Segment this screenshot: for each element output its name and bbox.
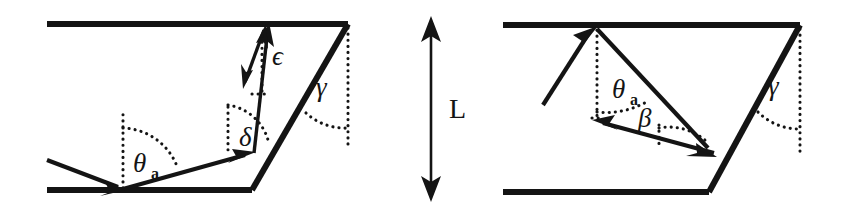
right-reflected-ray-arrowhead (592, 115, 618, 130)
left-epsilon-symbol: ϵ (272, 41, 284, 71)
left-theta-a-arc (123, 128, 178, 169)
right-slanted-wall (709, 25, 800, 192)
right-incoming-ray-arrowhead (573, 26, 598, 51)
left-delta-symbol: δ (239, 122, 252, 152)
right-gamma-arc (758, 112, 800, 129)
right-diagram: θ a β γ (503, 25, 800, 192)
left-theta-a-subscript: a (151, 165, 159, 182)
physics-diagram-svg: θ a δ ϵ γ L (0, 0, 844, 218)
right-theta-a-symbol: θ (612, 74, 625, 104)
left-diagram: θ a δ ϵ γ (47, 22, 348, 196)
left-theta-a-symbol: θ (133, 148, 146, 178)
left-gamma-arc (306, 113, 348, 128)
right-beta-symbol: β (637, 103, 652, 133)
center-dimension-group: L (421, 16, 466, 202)
left-gamma-symbol: γ (316, 72, 328, 102)
right-gamma-symbol: γ (768, 71, 780, 101)
figure-root: θ a δ ϵ γ L (0, 0, 844, 218)
right-theta-a-subscript: a (630, 91, 638, 108)
length-label: L (449, 93, 466, 124)
